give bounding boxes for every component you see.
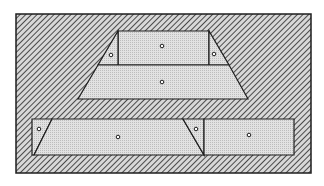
dissection-diagram [0, 0, 324, 186]
bottom-right-rect-pin-icon [247, 133, 251, 137]
top-right-triangle-pin-icon [212, 52, 216, 56]
top-rect-piece [118, 31, 209, 65]
bottom-mid-triangle-pin-icon [194, 127, 198, 131]
top-trapezoid-base-pin-icon [160, 80, 164, 84]
top-rect-pin-icon [160, 44, 164, 48]
bottom-parallelogram-pin-icon [116, 135, 120, 139]
top-left-triangle-pin-icon [109, 53, 113, 57]
bottom-strip-assembly [32, 119, 294, 155]
bottom-left-triangle-pin-icon [37, 127, 41, 131]
diagram-canvas [0, 0, 324, 186]
